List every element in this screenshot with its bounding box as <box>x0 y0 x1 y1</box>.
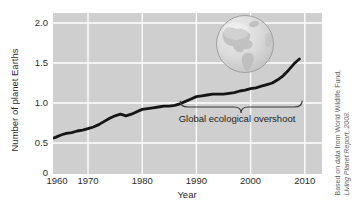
x-tick-label: 1970 <box>77 175 98 186</box>
y-tick-label: 0.5 <box>35 137 48 148</box>
y-axis-tick-labels: 00.51.01.52.0 <box>35 17 48 178</box>
source-credit-line1: Based on data from World Wildlife Fund, <box>333 24 342 196</box>
y-tick-label: 0 <box>43 167 48 178</box>
x-tick-label: 1990 <box>186 175 207 186</box>
x-tick-label: 2010 <box>294 175 315 186</box>
overshoot-annotation-label: Global ecological overshoot <box>177 113 297 125</box>
x-tick-label: 1980 <box>132 175 153 186</box>
y-tick-label: 1.5 <box>35 57 48 68</box>
globe-icon <box>217 16 274 73</box>
y-tick-label: 2.0 <box>35 17 48 28</box>
source-credit: Based on data from World Wildlife Fund, … <box>333 24 352 196</box>
x-axis-tick-labels: 196019701980199020002010 <box>46 175 315 186</box>
y-axis-title: Number of planet Earths <box>8 35 22 165</box>
chart-canvas: 196019701980199020002010 00.51.01.52.0 <box>0 0 357 217</box>
plot-area <box>53 13 322 174</box>
ecological-overshoot-figure: 196019701980199020002010 00.51.01.52.0 N… <box>0 0 357 217</box>
x-tick-label: 2000 <box>240 175 261 186</box>
x-axis-title: Year <box>157 188 217 201</box>
y-tick-label: 1.0 <box>35 97 48 108</box>
source-credit-line2: Living Planet Report, 2008. <box>342 24 351 196</box>
x-tick-label: 1960 <box>46 175 67 186</box>
